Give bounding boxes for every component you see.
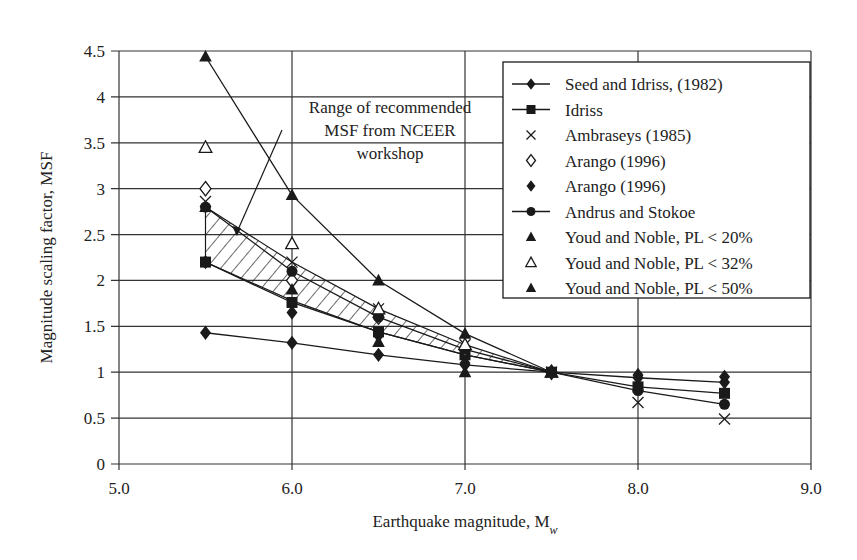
- open-triangle-marker: [286, 237, 299, 249]
- filled-diamond-marker: [633, 368, 644, 382]
- annotation-text-line: Range of recommended: [309, 98, 472, 117]
- y-tick-label: 3.5: [84, 134, 105, 153]
- annotation: Range of recommendedMSF from NCEERworksh…: [232, 98, 472, 236]
- filled-square-marker: [719, 388, 730, 399]
- y-tick-label: 3: [97, 180, 106, 199]
- filled-diamond-marker: [200, 326, 211, 340]
- legend: Seed and Idriss, (1982)IdrissAmbraseys (…: [503, 62, 810, 298]
- y-tick-label: 0: [97, 455, 106, 474]
- x-tick-label: 7.0: [454, 479, 475, 498]
- msf-chart: Range of recommendedMSF from NCEERworksh…: [0, 0, 857, 560]
- legend-label: Idriss: [565, 101, 603, 120]
- legend-label: Youd and Noble, PL < 50%: [565, 279, 753, 298]
- legend-label: Andrus and Stokoe: [565, 203, 695, 222]
- legend-label: Arango (1996): [565, 152, 666, 171]
- filled-circle-marker: [633, 385, 644, 396]
- annotation-leader: [237, 130, 282, 232]
- hatched-band: [206, 207, 552, 372]
- legend-label: Youd and Noble, PL < 32%: [565, 254, 753, 273]
- annotation-text-line: workshop: [356, 144, 423, 163]
- filled-diamond-marker: [373, 348, 384, 362]
- filled-diamond-marker: [287, 336, 298, 350]
- legend-label: Youd and Noble, PL < 20%: [565, 228, 753, 247]
- x-tick-label: 6.0: [281, 479, 302, 498]
- open-diamond-marker: [200, 182, 211, 196]
- y-tick-label: 2.5: [84, 226, 105, 245]
- x-tick-label: 8.0: [627, 479, 648, 498]
- filled-circle-marker: [287, 266, 298, 277]
- annotation-text-line: MSF from NCEER: [324, 121, 456, 140]
- y-tick-label: 4: [97, 88, 106, 107]
- x-tick-label: 5.0: [108, 479, 129, 498]
- x-axis-title: Earthquake magnitude, Mw: [372, 512, 557, 537]
- legend-label: Arango (1996): [565, 177, 666, 196]
- y-tick-label: 4.5: [84, 42, 105, 61]
- y-tick-label: 0.5: [84, 409, 105, 428]
- filled-circle-marker: [719, 399, 730, 410]
- legend-label: Ambraseys (1985): [565, 126, 691, 145]
- y-axis-title: Magnitude scaling factor, MSF: [37, 152, 56, 364]
- y-tick-label: 2: [97, 271, 106, 290]
- filled-triangle-marker: [459, 366, 472, 378]
- filled-circle-marker: [527, 207, 536, 216]
- filled-triangle-marker: [199, 50, 212, 62]
- x-marker: [719, 414, 730, 425]
- legend-label: Seed and Idriss, (1982): [565, 75, 723, 94]
- nceer-range-band: [206, 207, 552, 372]
- y-tick-label: 1.5: [84, 317, 105, 336]
- filled-triangle-marker: [286, 188, 299, 200]
- filled-square-marker: [527, 105, 536, 114]
- y-tick-label: 1: [97, 363, 106, 382]
- x-tick-label: 9.0: [800, 479, 821, 498]
